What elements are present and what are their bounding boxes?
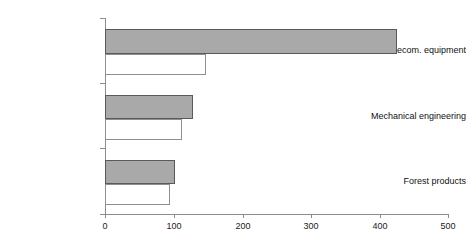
bar-mechanical-engineering-series-1: [105, 95, 193, 119]
y-tick-3: [100, 214, 105, 215]
x-tick-5: [448, 214, 449, 218]
x-tick-1: [174, 214, 175, 218]
y-tick-2: [100, 148, 105, 149]
bar-chart: 0 100 200 300 400 500 Telecom. equipment…: [0, 0, 466, 237]
x-tick-0: [105, 214, 106, 218]
bar-telecom-equipment-series-1: [105, 29, 397, 54]
bar-mechanical-engineering-series-2: [105, 119, 182, 140]
y-tick-1: [100, 83, 105, 84]
bar-forest-products-series-2: [105, 184, 170, 205]
category-label-mechanical-engineering: Mechanical engineering: [368, 111, 466, 121]
bar-telecom-equipment-series-2: [105, 54, 206, 75]
category-label-forest-products: Forest products: [368, 176, 466, 186]
x-tick-label-1: 100: [166, 221, 181, 231]
x-tick-label-4: 400: [372, 221, 387, 231]
x-tick-label-2: 200: [235, 221, 250, 231]
x-tick-4: [380, 214, 381, 218]
y-tick-0: [100, 18, 105, 19]
x-tick-label-0: 0: [102, 221, 107, 231]
x-tick-3: [311, 214, 312, 218]
x-tick-label-5: 500: [440, 221, 455, 231]
x-tick-label-3: 300: [303, 221, 318, 231]
bar-forest-products-series-1: [105, 160, 175, 184]
value-axis-line: [105, 214, 449, 215]
x-tick-2: [243, 214, 244, 218]
